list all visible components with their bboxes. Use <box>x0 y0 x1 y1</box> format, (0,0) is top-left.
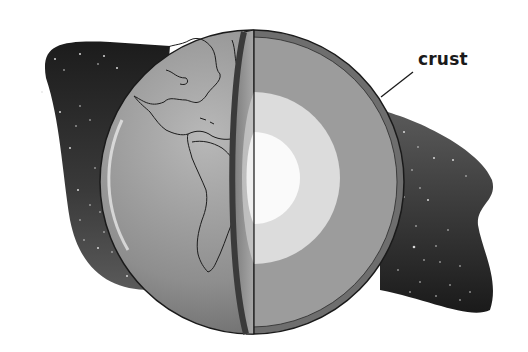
crust-leader-line <box>381 72 413 97</box>
crust-label: crust <box>418 49 468 69</box>
